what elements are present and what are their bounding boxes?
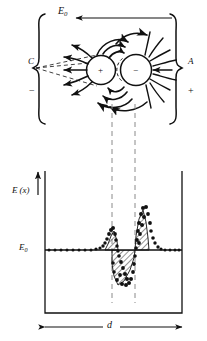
y-axis-label: E (x) xyxy=(12,186,30,195)
anode-bracket xyxy=(170,14,182,124)
dipole-negative-label: − xyxy=(133,66,138,75)
applied-field-label: E0 xyxy=(58,6,68,17)
baseline-label: E0 xyxy=(19,243,28,253)
dipole-positive-label: + xyxy=(98,66,103,75)
anode-label: A xyxy=(188,57,194,66)
dipole-spheres xyxy=(87,55,152,86)
cathode-sign: − xyxy=(29,86,35,96)
anode-sign: + xyxy=(188,86,194,96)
field-lines-lower-arcs xyxy=(98,87,147,111)
figure-root xyxy=(0,0,207,341)
cathode-label: C xyxy=(28,57,34,66)
width-label: d xyxy=(107,320,112,330)
